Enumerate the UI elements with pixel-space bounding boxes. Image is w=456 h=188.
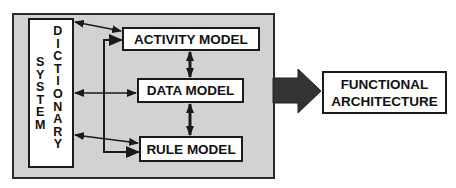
activity-model-label: ACTIVITY MODEL [134,32,248,47]
activity-model-box: ACTIVITY MODEL [122,27,260,51]
architecture-label: ARCHITECTURE [331,93,438,110]
rule-model-label: RULE MODEL [146,142,235,157]
letter: S [36,56,44,69]
letter: S [36,81,44,94]
letter: O [53,88,63,101]
letter: M [35,119,45,132]
functional-label: FUNCTIONAL [341,76,429,93]
letter: Y [54,138,62,151]
letter: C [53,50,62,63]
letter: D [53,25,62,38]
letter: A [53,113,62,126]
data-model-box: DATA MODEL [137,78,244,103]
rule-model-box: RULE MODEL [139,136,243,162]
system-label: S Y S T E M [35,56,45,132]
dictionary-label: D I C T I O N A R Y [53,25,63,151]
system-dictionary-box: S Y S T E M D I C T I O N A R Y [28,18,74,168]
block-arrow [273,69,321,113]
functional-architecture-box: FUNCTIONAL ARCHITECTURE [322,71,447,114]
data-model-label: DATA MODEL [147,83,235,98]
